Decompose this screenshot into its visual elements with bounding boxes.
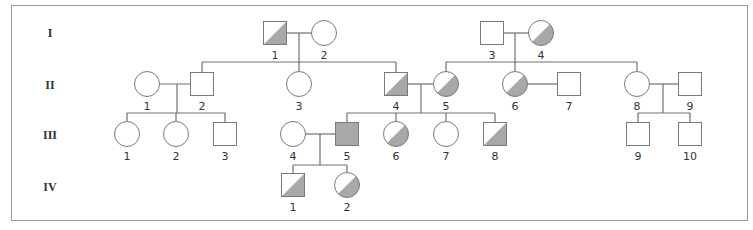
individual-number-label: 2 <box>344 201 351 214</box>
individual-ii-7-male-unaffected: 7 <box>558 73 581 113</box>
individual-number-label: 2 <box>321 49 328 62</box>
pedigree-chart: IIIIIIIV 12341234567891234567891012 <box>0 0 753 230</box>
generation-label: II <box>45 78 55 92</box>
generation-label: I <box>48 26 53 40</box>
individual-i-1-male-carrier: 1 <box>262 20 289 62</box>
male-square-symbol <box>679 123 702 146</box>
individual-number-label: 2 <box>173 150 180 163</box>
male-square-symbol <box>558 73 581 96</box>
individual-number-label: 2 <box>199 100 206 113</box>
individual-ii-2-male-unaffected: 2 <box>191 73 214 113</box>
male-square-symbol <box>627 123 650 146</box>
individual-number-label: 10 <box>683 150 697 163</box>
individual-iii-6-female-carrier: 6 <box>383 121 410 163</box>
individual-ii-4-male-carrier: 4 <box>383 71 410 113</box>
individual-number-label: 9 <box>687 100 694 113</box>
individual-number-label: 8 <box>492 150 499 163</box>
individual-iv-2-female-carrier: 2 <box>334 172 361 214</box>
individual-number-label: 5 <box>443 100 450 113</box>
individual-i-3-male-unaffected: 3 <box>481 22 504 62</box>
generation-label: III <box>43 128 57 142</box>
individual-ii-8-female-unaffected: 8 <box>625 72 650 113</box>
individual-number-label: 4 <box>538 49 545 62</box>
individual-iii-5-male-affected: 5 <box>336 123 359 163</box>
male-square-symbol <box>679 73 702 96</box>
individual-ii-6-female-carrier: 6 <box>502 71 529 113</box>
individual-iii-8-male-carrier: 8 <box>482 121 509 163</box>
male-square-symbol <box>214 123 237 146</box>
individual-number-label: 8 <box>634 100 641 113</box>
individual-number-label: 4 <box>290 150 297 163</box>
individual-number-label: 5 <box>344 150 351 163</box>
individual-iii-10-male-unaffected: 10 <box>679 123 702 163</box>
individual-number-label: 1 <box>290 201 297 214</box>
male-square-symbol <box>336 123 359 146</box>
individual-iii-3-male-unaffected: 3 <box>214 123 237 163</box>
generation-label: IV <box>43 180 57 194</box>
individual-number-label: 1 <box>124 150 131 163</box>
individual-iii-1-female-unaffected: 1 <box>115 122 140 163</box>
individual-number-label: 4 <box>393 100 400 113</box>
individuals: 12341234567891234567891012 <box>115 20 702 214</box>
individual-number-label: 3 <box>222 150 229 163</box>
generation-labels: IIIIIIIV <box>43 26 57 194</box>
connector-lines <box>127 33 690 174</box>
individual-number-label: 6 <box>512 100 519 113</box>
individual-number-label: 6 <box>393 150 400 163</box>
individual-ii-5-female-carrier: 5 <box>433 71 460 113</box>
individual-number-label: 9 <box>635 150 642 163</box>
individual-iii-7-female-unaffected: 7 <box>434 122 459 163</box>
individual-iii-4-female-unaffected: 4 <box>281 122 306 163</box>
individual-i-4-female-carrier: 4 <box>528 20 555 62</box>
male-square-symbol <box>191 73 214 96</box>
individual-number-label: 1 <box>272 49 279 62</box>
individual-number-label: 3 <box>296 100 303 113</box>
individual-number-label: 3 <box>489 49 496 62</box>
individual-iv-1-male-carrier: 1 <box>280 172 307 214</box>
individual-ii-1-female-unaffected: 1 <box>135 72 160 113</box>
individual-number-label: 7 <box>443 150 450 163</box>
individual-number-label: 7 <box>566 100 573 113</box>
individual-i-2-female-unaffected: 2 <box>312 21 337 62</box>
individual-ii-3-female-unaffected: 3 <box>287 72 312 113</box>
individual-ii-9-male-unaffected: 9 <box>679 73 702 113</box>
individual-number-label: 1 <box>144 100 151 113</box>
individual-iii-9-male-unaffected: 9 <box>627 123 650 163</box>
male-square-symbol <box>481 22 504 45</box>
individual-iii-2-female-unaffected: 2 <box>164 122 189 163</box>
